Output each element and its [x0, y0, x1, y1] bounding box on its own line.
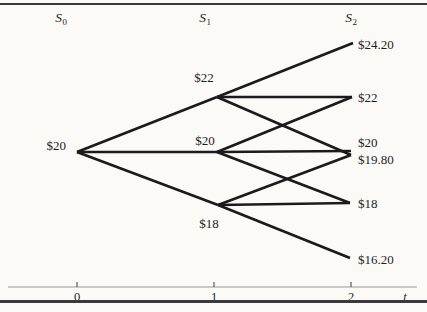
column-header-base: S: [55, 10, 62, 25]
tree-edge-S1m-S2mm: [217, 151, 351, 152]
price-label-S1u: $22: [194, 71, 214, 84]
price-label-S2uu: $24.20: [358, 38, 394, 51]
column-header-subscript: 2: [352, 17, 357, 27]
column-header-S1: S1: [199, 11, 211, 26]
price-label-S2md: $18: [358, 197, 378, 210]
column-header-S2: S2: [345, 11, 357, 26]
price-label-S2dd: $16.20: [358, 253, 394, 266]
tree-edge-S0-S1d: [77, 152, 218, 205]
tree-edge-S1u-S2uu: [217, 43, 353, 97]
tree-edge-S1m-S2md: [217, 152, 350, 203]
column-header-subscript: 1: [206, 17, 211, 27]
bottom-rule: [0, 300, 427, 303]
price-tree-figure: S0S1S2 $20$22$20$18$24.20$22$20$19.80$18…: [0, 0, 427, 312]
tree-edge-S1d-S2dd: [218, 205, 350, 258]
price-label-S2um: $22: [358, 91, 378, 104]
column-header-base: S: [345, 10, 352, 25]
price-label-S2ud: $19.80: [358, 153, 394, 166]
column-header-subscript: 0: [62, 17, 67, 27]
price-label-S2mm: $20: [358, 136, 378, 149]
price-label-S1d: $18: [199, 217, 219, 230]
column-header-base: S: [199, 10, 206, 25]
price-label-S1m: $20: [195, 134, 215, 147]
price-label-S0: $20: [47, 139, 67, 152]
tree-edge-S1d-S2ud: [218, 155, 351, 205]
tree-edge-S1d-S2md: [218, 203, 350, 205]
column-header-S0: S0: [55, 11, 67, 26]
